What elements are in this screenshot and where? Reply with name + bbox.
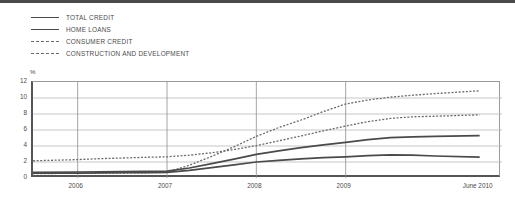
plot-area [31, 81, 500, 177]
chart-figure: TOTAL CREDITHOME LOANSCONSUMER CREDITCON… [0, 0, 515, 198]
legend-swatch-dashed-icon [31, 37, 59, 47]
legend-swatch-solid-icon [31, 13, 59, 23]
top-rule-divider [0, 0, 515, 3]
y-axis-tick-labels: 121086420 [0, 81, 27, 177]
legend-item: CONSTRUCTION AND DEVELOPMENT [31, 48, 351, 60]
y-axis-tick-label: 0 [3, 174, 27, 180]
x-axis-tick-label: June 2010 [463, 182, 493, 190]
x-axis-tick-label: 2007 [158, 182, 172, 190]
y-axis-tick-label: 8 [3, 110, 27, 116]
x-axis-tick-label: 2006 [69, 182, 83, 190]
series-line [33, 155, 480, 173]
y-axis-unit-label: % [30, 68, 36, 75]
x-axis-tick-label: 2009 [337, 182, 351, 190]
series-line [33, 136, 480, 173]
chart-legend: TOTAL CREDITHOME LOANSCONSUMER CREDITCON… [31, 12, 351, 60]
legend-item-label: CONSUMER CREDIT [66, 37, 133, 47]
x-axis-tick-label: 2008 [247, 182, 261, 190]
legend-item: CONSUMER CREDIT [31, 36, 351, 48]
legend-item-label: TOTAL CREDIT [66, 13, 114, 23]
y-axis-tick-label: 12 [3, 78, 27, 84]
y-axis-tick-label: 2 [3, 158, 27, 164]
chart-series-lines [33, 82, 502, 178]
legend-item: TOTAL CREDIT [31, 12, 351, 24]
legend-item-label: CONSTRUCTION AND DEVELOPMENT [66, 49, 189, 59]
legend-swatch-solid-icon [31, 25, 59, 35]
x-axis-tick-labels: 2006200720082009June 2010 [31, 182, 500, 194]
legend-item: HOME LOANS [31, 24, 351, 36]
legend-item-label: HOME LOANS [66, 25, 111, 35]
legend-swatch-dashed-icon [31, 49, 59, 59]
y-axis-tick-label: 6 [3, 126, 27, 132]
y-axis-tick-label: 4 [3, 142, 27, 148]
y-axis-tick-label: 10 [3, 94, 27, 100]
